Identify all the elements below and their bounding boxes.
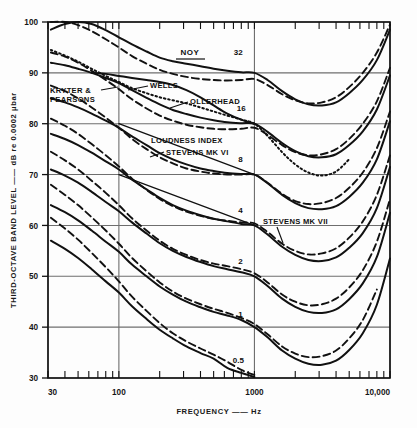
x-tick-label: 100 — [112, 388, 126, 397]
annotation-label: WELLS — [150, 81, 178, 90]
noy-contour-label: 1 — [238, 310, 243, 319]
y-tick-label: 100 — [24, 18, 38, 27]
x-tick-label: 10,000 — [365, 388, 390, 397]
y-axis-title: THIRD-OCTAVE BAND LEVEL —— dB re 0.0002 … — [9, 92, 18, 308]
x-tick-label: 1000 — [245, 388, 264, 397]
noy-contour-label: 32 — [234, 48, 243, 57]
y-tick-label: 70 — [29, 171, 39, 180]
y-tick-label: 60 — [29, 222, 39, 231]
annotation-label: STEVENS MK VI — [166, 148, 229, 157]
annotation-label: STEVENS MK VII — [263, 217, 328, 226]
figure-container: 30100100010,00030405060708090100FREQUENC… — [0, 0, 417, 428]
noy-contour-chart: 30100100010,00030405060708090100FREQUENC… — [0, 0, 417, 428]
annotation-label: KRYTER & — [50, 86, 91, 95]
x-tick-label: 30 — [48, 388, 58, 397]
noy-contour-label: 4 — [238, 206, 243, 215]
noy-contour-label: 2 — [238, 257, 243, 266]
y-tick-label: 80 — [29, 120, 39, 129]
annotation-label: OLLERHEAD — [190, 97, 240, 106]
noy-contour-label: 8 — [238, 155, 243, 164]
y-tick-label: 30 — [29, 374, 39, 383]
noy-contour-label: 0.5 — [233, 356, 245, 365]
x-axis-title: FREQUENCY —— Hz — [176, 407, 261, 416]
y-tick-label: 50 — [29, 272, 39, 281]
noy-header-label: NOY — [181, 48, 200, 57]
annotation-label: PEARSONS — [50, 95, 95, 104]
y-tick-label: 90 — [29, 69, 39, 78]
y-tick-label: 40 — [29, 323, 39, 332]
annotation-label: LOUDNESS INDEX — [151, 136, 223, 145]
